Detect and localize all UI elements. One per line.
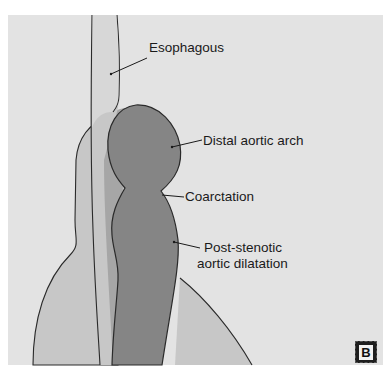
label-distal-aortic-arch: Distal aortic arch [203, 133, 304, 149]
distal-arch-leader-dot [171, 146, 173, 148]
panel-letter: B [359, 345, 372, 360]
label-coarctation: Coarctation [185, 189, 254, 205]
label-post-stenotic-line1: Post-stenotic [204, 240, 282, 256]
panel-letter-badge: B [355, 341, 377, 363]
esophagus-leader-dot [110, 73, 112, 75]
post-stenotic-leader-dot [173, 241, 175, 243]
label-post-stenotic-line2: aortic dilatation [197, 256, 288, 272]
label-esophagus: Esophagous [149, 40, 224, 56]
